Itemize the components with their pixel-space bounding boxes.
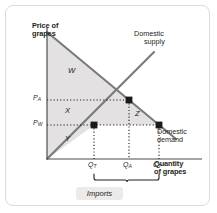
y-axis-title-line2: grapes	[32, 30, 58, 38]
x-tick-quantity-trade: QT	[88, 161, 97, 169]
x-tick-quantity-autarky: QA	[123, 161, 132, 169]
x-tick-consumption-trade: CT	[153, 161, 161, 169]
y-tick-price-world: PW	[33, 119, 42, 127]
y-tick-price-autarky-sub: A	[38, 96, 41, 102]
autarky-equilibrium-point	[126, 97, 133, 104]
x-tick-quantity-autarky-sub: A	[128, 163, 131, 169]
region-w-label: W	[68, 67, 75, 75]
imports-pill: Imports	[76, 187, 123, 200]
imports-bracket	[94, 174, 159, 182]
trade-supply-point	[91, 122, 98, 129]
domestic-demand-label: Domestic demand	[157, 128, 187, 144]
y-axis-title: Price of grapes	[32, 22, 58, 38]
y-tick-price-world-sub: W	[38, 121, 43, 127]
region-z-label: Z	[135, 110, 140, 118]
figure-card: Price of grapes Quantity of grapes Domes…	[5, 5, 210, 206]
x-tick-quantity-trade-sub: T	[93, 163, 96, 169]
domestic-demand-label-line2: demand	[157, 136, 187, 144]
imports-label: Imports	[76, 187, 123, 200]
region-x-label: X	[65, 107, 70, 115]
domestic-supply-label-line2: supply	[134, 38, 165, 46]
region-y-label: Y	[65, 135, 70, 143]
x-tick-consumption-trade-sub: T	[158, 163, 161, 169]
domestic-supply-label: Domestic supply	[134, 30, 165, 46]
y-tick-price-autarky: PA	[33, 94, 41, 102]
shaded-lower-wedge	[47, 125, 94, 159]
